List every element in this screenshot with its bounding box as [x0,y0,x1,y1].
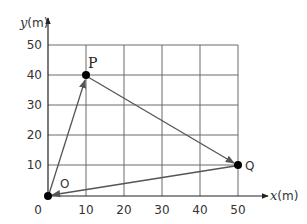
y-axis-title: y(m) [19,15,48,30]
x-axis-unit: (m) [277,189,298,203]
x-tick-50: 50 [230,203,245,217]
y-tick-50: 50 [27,38,42,52]
grid [48,45,238,196]
point-p [82,71,90,79]
origin-tick-label: 0 [34,203,42,217]
x-tick-20: 20 [116,203,131,217]
y-axis-unit: (m) [27,16,48,30]
displacement-arrows [49,77,235,195]
x-tick-labels: 10 20 30 40 50 [78,203,245,217]
point-q-label: Q [245,159,254,173]
point-p-label: P [88,55,97,71]
y-tick-10: 10 [27,158,42,172]
point-o [44,192,52,200]
y-tick-labels: 10 20 30 40 50 [27,38,42,172]
diagram-svg: 10 20 30 40 50 10 20 30 40 50 0 y(m) x(m… [0,0,307,224]
arrow-p-to-q [88,77,234,163]
y-tick-40: 40 [27,68,42,82]
point-q [234,161,242,169]
displacement-diagram: 10 20 30 40 50 10 20 30 40 50 0 y(m) x(m… [0,0,307,224]
arrow-q-to-o [52,166,235,195]
x-tick-40: 40 [192,203,207,217]
y-tick-20: 20 [27,128,42,142]
x-axis-title: x(m) [270,188,298,203]
point-o-label: O [60,177,69,191]
x-tick-30: 30 [154,203,169,217]
svg-text:y(m): y(m) [19,15,48,30]
x-tick-10: 10 [78,203,93,217]
y-tick-30: 30 [27,98,42,112]
svg-text:x(m): x(m) [270,188,298,203]
